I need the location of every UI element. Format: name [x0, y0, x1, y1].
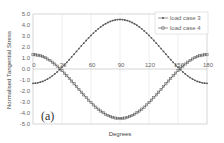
y-tick-label: 5.0 [22, 11, 31, 17]
x-axis-label: Degrees [109, 131, 132, 137]
y-tick-label: 0.0 [22, 66, 31, 72]
y-tick-label: 3.0 [22, 33, 31, 39]
y-tick-label: 4.0 [22, 22, 31, 28]
x-tick-label: 90 [118, 62, 125, 68]
y-tick-label: 2.0 [22, 44, 31, 50]
tangential-stress-chart: 5.04.03.02.01.00.0-1.0-2.0-3.0-4.0-5.0 0… [0, 0, 224, 143]
panel-label: (a) [41, 109, 54, 123]
x-tick-label: 180 [203, 62, 214, 68]
x-tick-label: 0 [32, 62, 36, 68]
y-axis-ticks: 5.04.03.02.01.00.0-1.0-2.0-3.0-4.0-5.0 [20, 11, 31, 127]
y-tick-label: -2.0 [20, 88, 31, 94]
y-tick-label: -5.0 [20, 121, 31, 127]
legend-label-load-case-4: load case 4 [170, 25, 201, 31]
y-tick-label: -3.0 [20, 99, 31, 105]
diamond-marker-icon [162, 17, 164, 19]
legend-label-load-case-3: load case 3 [170, 15, 201, 21]
x-tick-label: 60 [89, 62, 96, 68]
legend: load case 3 load case 4 [155, 12, 208, 34]
y-tick-label: 1.0 [22, 55, 31, 61]
y-axis-label: Normalised Tangential Stress [6, 31, 12, 109]
x-tick-label: 120 [145, 62, 156, 68]
y-tick-label: -4.0 [20, 110, 31, 116]
y-tick-label: -1.0 [20, 77, 31, 83]
